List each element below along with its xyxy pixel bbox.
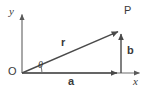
y-axis-label: y — [9, 6, 14, 17]
vector-diagram-figure: y x O P r a b θ — [0, 0, 146, 95]
angle-theta-label: θ — [38, 60, 43, 70]
vector-b-label: b — [127, 45, 134, 56]
origin-label: O — [8, 66, 17, 77]
vector-a-label: a — [68, 76, 74, 87]
point-p-label: P — [124, 5, 131, 16]
x-axis-label: x — [133, 76, 138, 87]
vector-r-arrow — [22, 32, 118, 73]
vector-r-label: r — [61, 37, 65, 48]
